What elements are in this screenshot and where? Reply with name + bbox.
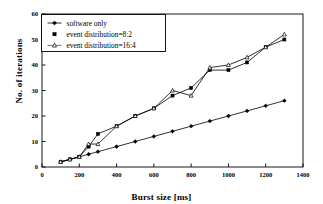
figure: 0200400600800100012001400 0102030405060 …: [0, 0, 323, 204]
x-tick-label: 800: [186, 171, 196, 178]
series-line: [61, 34, 285, 161]
legend-label: event distribution=16:4: [67, 41, 137, 50]
marker-triangle: [245, 55, 249, 59]
marker-triangle: [208, 65, 212, 69]
marker-diamond: [87, 152, 91, 156]
marker-square: [53, 33, 56, 36]
marker-diamond: [282, 99, 286, 103]
marker-square: [171, 94, 174, 97]
marker-triangle: [171, 88, 175, 92]
y-tick-label: 40: [32, 61, 39, 68]
legend-label: event distribution=8:2: [67, 30, 133, 39]
marker-diamond: [227, 114, 231, 118]
series-3: [59, 32, 287, 163]
marker-diamond: [96, 150, 100, 154]
x-tick-label: 200: [74, 171, 84, 178]
x-axis-title: Burst size [ms]: [132, 192, 192, 202]
x-tick-label: 600: [149, 171, 159, 178]
marker-triangle: [226, 63, 230, 67]
marker-square: [283, 38, 286, 41]
marker-triangle: [87, 142, 91, 146]
y-axis-title-wrapper: No. of iterations: [8, 17, 26, 125]
x-axis-ticks: [42, 164, 303, 168]
x-tick-labels: 0200400600800100012001400: [40, 171, 309, 178]
marker-diamond: [245, 109, 249, 113]
x-tick-label: 1200: [259, 171, 272, 178]
marker-square: [246, 61, 249, 64]
marker-triangle: [282, 32, 286, 36]
marker-diamond: [189, 124, 193, 128]
series-2: [59, 38, 286, 164]
x-tick-label: 0: [40, 171, 43, 178]
y-tick-labels: 0102030405060: [32, 10, 39, 170]
y-tick-label: 0: [35, 163, 38, 170]
marker-square: [96, 132, 99, 135]
series-1: [59, 99, 287, 164]
y-tick-label: 60: [32, 10, 39, 17]
x-tick-label: 1400: [297, 171, 310, 178]
x-axis-title-wrapper: Burst size [ms]: [0, 186, 323, 204]
marker-diamond: [152, 135, 156, 139]
marker-diamond: [208, 119, 212, 123]
y-axis-title: No. of iterations: [14, 38, 24, 103]
series-line: [61, 40, 285, 162]
y-tick-label: 30: [32, 87, 39, 94]
legend: software onlyevent distribution=8:2event…: [42, 15, 166, 52]
data-series-group: [59, 32, 287, 164]
x-tick-label: 400: [112, 171, 122, 178]
marker-diamond: [115, 145, 119, 149]
y-tick-label: 20: [32, 112, 39, 119]
marker-square: [227, 69, 230, 72]
x-tick-label: 1000: [222, 171, 235, 178]
marker-diamond: [133, 140, 137, 144]
marker-diamond: [171, 129, 175, 133]
legend-label: software only: [67, 19, 108, 28]
y-tick-label: 10: [32, 138, 39, 145]
marker-square: [190, 86, 193, 89]
y-tick-label: 50: [32, 36, 39, 43]
marker-diamond: [264, 104, 268, 108]
line-chart: 0200400600800100012001400 0102030405060 …: [0, 0, 323, 204]
